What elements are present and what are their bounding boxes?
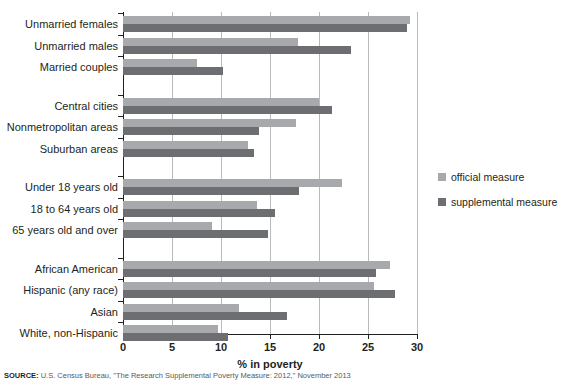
legend-item: supplemental measure — [438, 196, 557, 208]
bar-supplemental-measure — [123, 46, 351, 54]
bar-official-measure — [123, 98, 319, 106]
bar-official-measure — [123, 222, 212, 230]
category-label: Under 18 years old — [0, 182, 118, 193]
legend-item: official measure — [438, 171, 557, 183]
y-tick-mark — [118, 138, 123, 139]
source-note: SOURCE: U.S. Census Bureau, "The Researc… — [4, 371, 564, 380]
category-label: Unmarried females — [0, 19, 118, 30]
category-label: Central cities — [0, 101, 118, 112]
legend-label: supplemental measure — [451, 196, 557, 208]
bar-official-measure — [123, 261, 390, 269]
bar-official-measure — [123, 201, 257, 209]
bar-official-measure — [123, 179, 342, 187]
bar-official-measure — [123, 59, 197, 67]
y-tick-mark — [118, 322, 123, 323]
bar-official-measure — [123, 282, 374, 290]
bar-official-measure — [123, 119, 296, 127]
y-tick-mark — [118, 301, 123, 302]
x-tick-label-30: 30 — [402, 341, 432, 353]
legend-swatch-icon — [438, 198, 446, 206]
bar-supplemental-measure — [123, 230, 268, 238]
bar-official-measure — [123, 304, 239, 312]
y-tick-mark — [118, 35, 123, 36]
bar-supplemental-measure — [123, 127, 259, 135]
bar-official-measure — [123, 325, 218, 333]
x-tick-label-0: 0 — [108, 341, 138, 353]
x-tick-label-15: 15 — [255, 341, 285, 353]
y-tick-mark — [118, 198, 123, 199]
bar-official-measure — [123, 38, 298, 46]
legend-label: official measure — [451, 171, 524, 183]
category-label-column: Unmarried femalesUnmarried malesMarried … — [0, 12, 118, 334]
bar-supplemental-measure — [123, 312, 287, 320]
bar-supplemental-measure — [123, 106, 332, 114]
bar-supplemental-measure — [123, 209, 275, 217]
x-tick-mark-25 — [368, 334, 369, 339]
y-tick-mark — [118, 258, 123, 259]
category-label: Hispanic (any race) — [0, 285, 118, 296]
chart-legend: official measuresupplemental measure — [438, 171, 557, 221]
category-label: 65 years old and over — [0, 225, 118, 236]
source-label: SOURCE: — [4, 371, 39, 380]
category-label: Suburban areas — [0, 144, 118, 155]
bar-official-measure — [123, 141, 248, 149]
bar-supplemental-measure — [123, 269, 376, 277]
bar-supplemental-measure — [123, 187, 299, 195]
category-label: White, non-Hispanic — [0, 328, 118, 339]
x-axis-title: % in poverty — [123, 358, 417, 370]
category-label: Nonmetropolitan areas — [0, 122, 118, 133]
x-tick-mark-20 — [319, 334, 320, 339]
x-tick-label-25: 25 — [353, 341, 383, 353]
x-tick-mark-30 — [417, 334, 418, 339]
bar-supplemental-measure — [123, 149, 254, 157]
y-tick-mark — [118, 279, 123, 280]
x-tick-label-5: 5 — [157, 341, 187, 353]
source-text: U.S. Census Bureau, "The Research Supple… — [39, 371, 351, 380]
bar-official-measure — [123, 16, 410, 24]
category-label: Married couples — [0, 62, 118, 73]
y-tick-mark — [118, 13, 123, 14]
category-label: African American — [0, 264, 118, 275]
gridline-30 — [417, 12, 418, 334]
plot-area — [123, 12, 417, 334]
category-label: Unmarried males — [0, 41, 118, 52]
category-label: 18 to 64 years old — [0, 204, 118, 215]
legend-swatch-icon — [438, 173, 446, 181]
bar-supplemental-measure — [123, 290, 395, 298]
bar-supplemental-measure — [123, 333, 228, 341]
bar-supplemental-measure — [123, 24, 407, 32]
category-label: Asian — [0, 307, 118, 318]
y-tick-mark — [118, 95, 123, 96]
y-tick-mark — [118, 219, 123, 220]
x-tick-mark-15 — [270, 334, 271, 339]
poverty-bar-chart: Unmarried femalesUnmarried malesMarried … — [0, 0, 575, 380]
x-tick-label-10: 10 — [206, 341, 236, 353]
y-tick-mark — [118, 176, 123, 177]
x-tick-label-20: 20 — [304, 341, 334, 353]
y-tick-mark — [118, 56, 123, 57]
y-tick-mark — [118, 116, 123, 117]
bar-supplemental-measure — [123, 67, 223, 75]
